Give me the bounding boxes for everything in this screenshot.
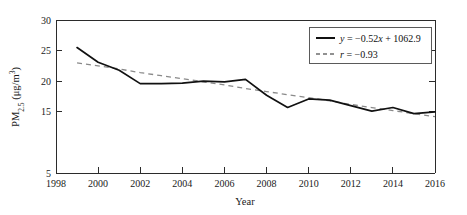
- x-tick-label-2010: 2010: [299, 178, 319, 189]
- y-axis-title: PM2.5 (μg/m3): [8, 67, 26, 127]
- legend-label-correlation: r = −0.93: [340, 49, 378, 60]
- x-tick-label-1998: 1998: [46, 178, 66, 189]
- x-tick-label-2008: 2008: [257, 178, 277, 189]
- y-tick-label-15: 15: [41, 106, 51, 117]
- y-axis-title-subscript: 2.5: [17, 102, 26, 112]
- y-axis-title-units-open: (μg/m: [10, 74, 22, 102]
- chart-legend[interactable]: y = −0.52x + 1062.9 r = −0.93: [309, 27, 431, 63]
- x-tick-label-2002: 2002: [130, 178, 150, 189]
- x-tick-label-2012: 2012: [341, 178, 361, 189]
- trend-line-series: [77, 63, 435, 117]
- y-tick-label-25: 25: [41, 45, 51, 56]
- y-axis-title-prefix: PM: [10, 111, 21, 127]
- x-tick-label-2004: 2004: [172, 178, 192, 189]
- chart-canvas: 30 25 20 15 5 1998 2000 2002 2004 2006 2…: [0, 0, 467, 215]
- y-tick-label-5: 5: [46, 168, 51, 179]
- svg-text:PM2.5 (μg/m3): PM2.5 (μg/m3): [8, 67, 26, 127]
- x-tick-label-2000: 2000: [88, 178, 108, 189]
- x-axis-title: Year: [235, 196, 255, 207]
- y-tick-label-30: 30: [41, 15, 51, 26]
- legend-regression-tail: + 1062.9: [383, 33, 421, 44]
- legend-regression-rest: = −0.52: [344, 33, 378, 44]
- x-tick-label-2016: 2016: [425, 178, 445, 189]
- legend-label-regression: y = −0.52x + 1062.9: [339, 33, 421, 44]
- x-tick-label-2006: 2006: [214, 178, 234, 189]
- x-tick-label-2014: 2014: [383, 178, 403, 189]
- y-axis-title-units-close: ): [10, 67, 22, 71]
- chart-figure: 30 25 20 15 5 1998 2000 2002 2004 2006 2…: [0, 0, 467, 215]
- y-tick-label-20: 20: [41, 76, 51, 87]
- legend-correlation-rest: = −0.93: [344, 49, 378, 60]
- x-axis-ticks: 1998 2000 2002 2004 2006 2008 2010 2012 …: [46, 165, 445, 189]
